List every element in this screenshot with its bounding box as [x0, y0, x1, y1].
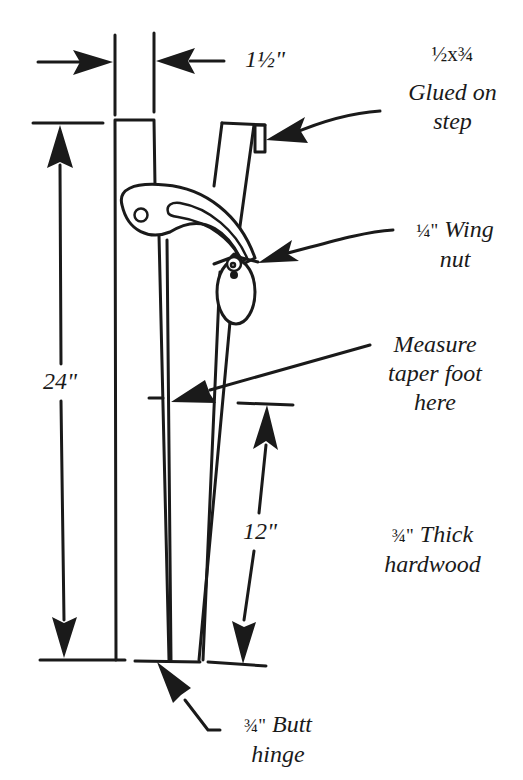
height-24-label: 24" [30, 368, 90, 395]
wingnut-line1: Wing [444, 216, 493, 242]
wingnut-arrow [258, 230, 393, 263]
wingnut-line2: nut [395, 245, 515, 274]
step-callout: ½x¾ Glued on step [385, 40, 520, 136]
step-label-line1: Glued on [385, 78, 520, 107]
wing-nut [214, 254, 258, 324]
hinge-line1: Butt [272, 711, 312, 737]
width-dimension [38, 33, 224, 115]
measure-arrow [149, 345, 370, 403]
thickness-line1: Thick [420, 521, 473, 547]
measure-callout: Measure taper foot here [370, 330, 500, 417]
wingnut-callout: ¼" Wing nut [395, 215, 515, 274]
wingnut-size: ¼" [416, 220, 438, 241]
hinge-size: ¾" [244, 715, 266, 736]
measure-line3: here [370, 388, 500, 417]
hinge-callout: ¾" Butt hinge [228, 710, 328, 769]
measure-line2: taper foot [370, 359, 500, 388]
hinge-arrow [157, 662, 220, 730]
hinge-line2: hinge [228, 740, 328, 769]
step-size: ½x¾ [385, 40, 520, 69]
glued-step [255, 125, 265, 152]
step-label-line2: step [385, 107, 520, 136]
thickness-callout: ¾" Thick hardwood [370, 520, 495, 579]
thickness-size: ¾" [392, 525, 414, 546]
thickness-line2: hardwood [370, 550, 495, 579]
measure-line1: Measure [370, 330, 500, 359]
height-12-label: 12" [232, 518, 288, 545]
width-label: 1½" [235, 46, 295, 73]
step-arrow [266, 111, 380, 143]
